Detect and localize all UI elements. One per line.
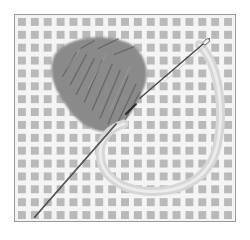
needlepoint-canvas-frame [14, 14, 236, 222]
illustration-stage [0, 0, 250, 240]
